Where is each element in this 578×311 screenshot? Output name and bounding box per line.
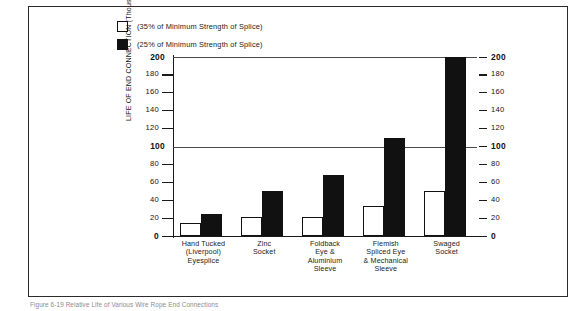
tick-mark (162, 164, 173, 165)
bar-filled (201, 214, 222, 236)
bar-group (424, 57, 466, 236)
tick-mark (479, 110, 487, 111)
bar-group (180, 57, 222, 236)
tick-mark (479, 200, 487, 201)
y-axis-tick-label: 160 (145, 87, 159, 96)
bar-group (363, 57, 405, 236)
tick-mark (162, 236, 173, 237)
y-axis-tick-label: 120 (491, 123, 505, 132)
figure-caption: Figure 6-19 Relative Life of Various Wir… (30, 301, 218, 309)
x-axis-line (173, 236, 479, 237)
bar-filled (384, 138, 405, 236)
tick-mark (162, 218, 173, 219)
y-axis-tick-label: 0 (491, 231, 496, 241)
tick-mark (479, 57, 487, 58)
bar-open (180, 223, 201, 236)
tick-mark (162, 200, 173, 201)
y-axis-tick-label: 0 (154, 231, 159, 241)
tick-mark (479, 218, 487, 219)
legend-item-35-percent: (35% of Minimum Strength of Splice) (117, 19, 447, 34)
bar-filled (445, 57, 466, 236)
bar-group (241, 57, 283, 236)
y-axis-tick-label: 200 (150, 52, 165, 62)
tick-mark (479, 182, 487, 183)
tick-mark (162, 182, 173, 183)
y-axis-tick-label: 80 (150, 159, 159, 168)
y-axis-tick-label: 140 (491, 105, 505, 114)
figure-frame: (35% of Minimum Strength of Splice) (25%… (28, 6, 568, 297)
y-axis-tick-label: 20 (150, 213, 159, 222)
y-axis-tick-label: 180 (491, 69, 505, 78)
y-axis-tick-label: 140 (145, 105, 159, 114)
y-axis-tick-label: 160 (491, 87, 505, 96)
tick-mark (162, 110, 173, 111)
legend-item-25-percent: (25% of Minimum Strength of Splice) (117, 37, 447, 52)
x-axis-label-line: Sleeve (347, 265, 424, 273)
tick-mark (479, 74, 487, 75)
y-axis-tick-label: 120 (145, 123, 159, 132)
x-axis-category-label: SwagedSocket (408, 240, 485, 257)
y-axis-tick-label: 40 (491, 195, 500, 204)
y-axis-tick-label: 20 (491, 213, 500, 222)
bar-open (241, 217, 262, 236)
bar-open (424, 191, 445, 236)
y-axis-title: LIFE OF END CONNECTION (Thousands of Cyc… (125, 107, 132, 121)
y-axis-tick-label: 40 (150, 195, 159, 204)
chart-legend: (35% of Minimum Strength of Splice) (25%… (117, 19, 447, 55)
x-axis-label-line: Eyesplice (165, 257, 242, 265)
legend-item-label: (35% of Minimum Strength of Splice) (137, 22, 263, 31)
x-axis-label-line: Socket (408, 248, 485, 256)
tick-mark (162, 128, 173, 129)
bar-filled (262, 191, 283, 236)
bar-filled (323, 175, 344, 236)
y-axis-tick-label: 200 (491, 52, 506, 62)
plot-area (173, 57, 477, 236)
tick-mark (162, 92, 173, 93)
y-axis-tick-label: 100 (491, 141, 506, 151)
y-axis-tick-label: 60 (491, 177, 500, 186)
y-axis-tick-label: 100 (150, 141, 165, 151)
y-axis-tick-label: 60 (150, 177, 159, 186)
tick-mark (162, 74, 173, 75)
y-axis-tick-label: 80 (491, 159, 500, 168)
tick-mark (479, 146, 487, 147)
bar-group (302, 57, 344, 236)
y-axis-tick-label: 180 (145, 69, 159, 78)
tick-mark (479, 164, 487, 165)
legend-item-label: (25% of Minimum Strength of Splice) (137, 40, 263, 49)
tick-mark (479, 236, 487, 237)
tick-mark (479, 128, 487, 129)
bar-open (302, 217, 323, 236)
bar-open (363, 206, 384, 236)
tick-mark (479, 92, 487, 93)
